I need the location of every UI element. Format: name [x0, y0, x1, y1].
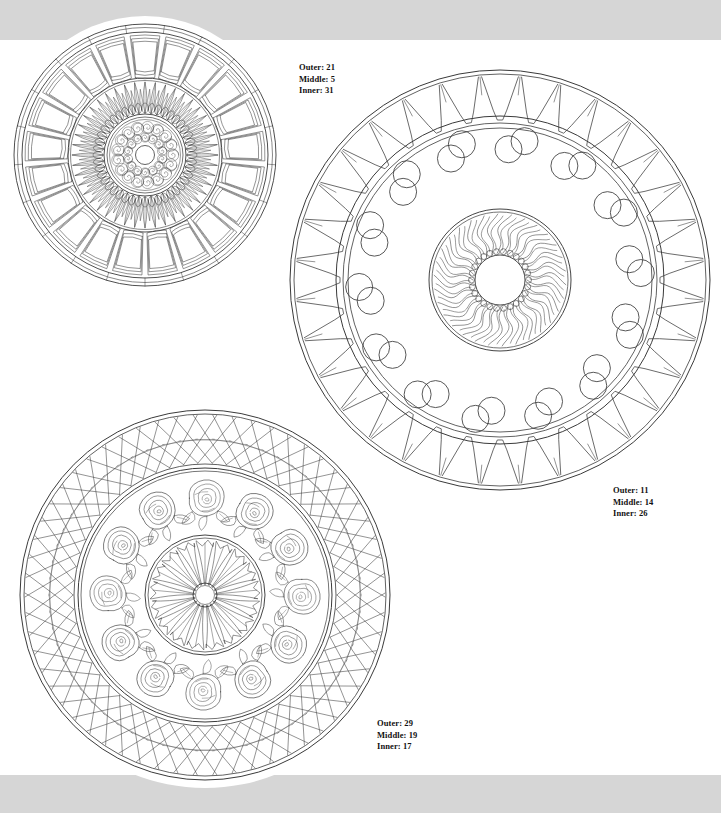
- middle-count-label: Middle: 19: [377, 730, 417, 742]
- middle-count-label: Middle: 14: [613, 497, 653, 509]
- inner-count-label: Inner: 26: [613, 508, 653, 520]
- page-canvas: Outer: 21 Middle: 5 Inner: 31 Outer: 11 …: [0, 0, 721, 813]
- mandala-top-left: [12, 22, 278, 288]
- mandala-top-left-ring-counts: Outer: 21 Middle: 5 Inner: 31: [299, 62, 335, 97]
- mandala-top-right-ring-counts: Outer: 11 Middle: 14 Inner: 26: [613, 485, 653, 520]
- mandala-bottom-left: [18, 408, 392, 782]
- mandala-top-left-drawing: [12, 22, 278, 288]
- inner-count-label: Inner: 31: [299, 85, 335, 97]
- mandala-bottom-left-drawing: [18, 408, 392, 782]
- outer-count-label: Outer: 21: [299, 62, 335, 74]
- outer-count-label: Outer: 29: [377, 718, 417, 730]
- inner-count-label: Inner: 17: [377, 741, 417, 753]
- middle-count-label: Middle: 5: [299, 74, 335, 86]
- outer-count-label: Outer: 11: [613, 485, 653, 497]
- mandala-bottom-left-ring-counts: Outer: 29 Middle: 19 Inner: 17: [377, 718, 417, 753]
